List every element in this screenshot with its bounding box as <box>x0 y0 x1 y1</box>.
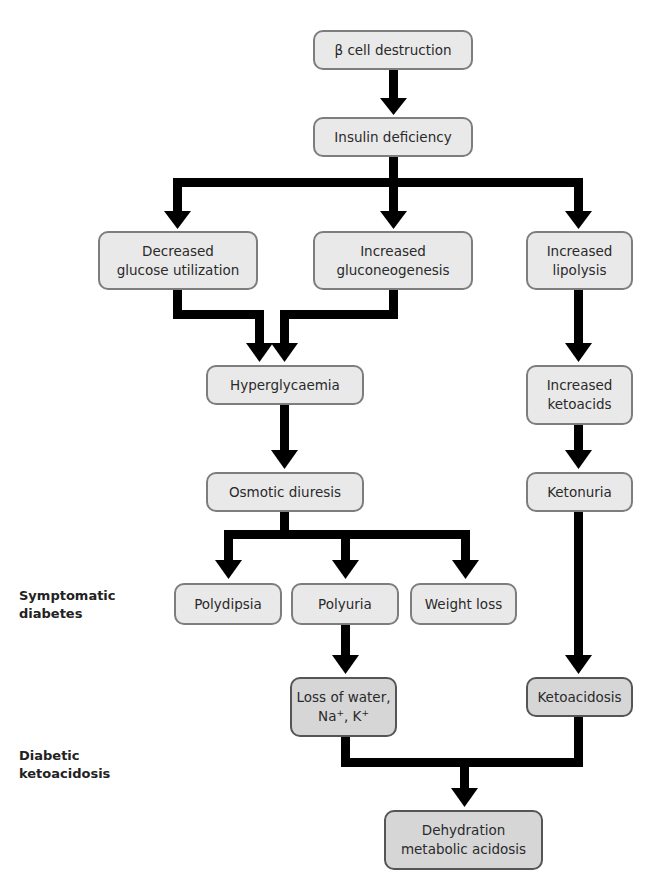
node-label-line1: Increased <box>547 242 613 261</box>
side-label-line1: Diabetic <box>19 747 110 765</box>
sodium-symbol: Na <box>318 708 336 724</box>
node-label-line2: ketoacids <box>547 395 611 414</box>
node-ketonuria: Ketonuria <box>526 472 633 512</box>
node-insulin-deficiency: Insulin deficiency <box>313 117 473 157</box>
side-label-symptomatic-diabetes: Symptomatic diabetes <box>19 587 116 623</box>
node-label: Hyperglycaemia <box>230 376 340 395</box>
node-beta-cell-destruction: β cell destruction <box>313 30 473 70</box>
node-osmotic-diuresis: Osmotic diuresis <box>206 472 364 512</box>
node-label: Polydipsia <box>194 595 262 614</box>
node-label: Insulin deficiency <box>334 128 451 147</box>
node-increased-gluconeogenesis: Increased gluconeogenesis <box>313 231 473 290</box>
node-label-line1: Loss of water, <box>297 688 391 707</box>
side-label-line2: diabetes <box>19 605 116 623</box>
node-label: Weight loss <box>425 595 502 614</box>
node-label-line2: glucose utilization <box>117 261 240 280</box>
node-label-line1: Increased <box>547 376 613 395</box>
node-label-line2: metabolic acidosis <box>401 840 526 859</box>
node-decreased-glucose-utilization: Decreased glucose utilization <box>98 231 258 290</box>
side-label-diabetic-ketoacidosis: Diabetic ketoacidosis <box>19 747 110 783</box>
node-polydipsia: Polydipsia <box>174 583 282 625</box>
side-label-line1: Symptomatic <box>19 587 116 605</box>
node-label-line1: Dehydration <box>422 821 506 840</box>
side-label-line2: ketoacidosis <box>19 765 110 783</box>
superscript-plus: + <box>361 708 369 718</box>
node-label-line2: lipolysis <box>553 261 607 280</box>
node-increased-ketoacids: Increased ketoacids <box>526 365 633 425</box>
node-increased-lipolysis: Increased lipolysis <box>526 231 633 290</box>
node-label-line2: gluconeogenesis <box>336 261 449 280</box>
node-label: Osmotic diuresis <box>229 483 341 502</box>
node-ketoacidosis: Ketoacidosis <box>526 677 633 717</box>
superscript-plus: + <box>336 708 344 718</box>
node-label-line2: Na+, K+ <box>318 707 369 726</box>
node-label: Polyuria <box>318 595 372 614</box>
node-label: Ketonuria <box>547 483 612 502</box>
node-label-line1: Increased <box>360 242 426 261</box>
node-hyperglycaemia: Hyperglycaemia <box>206 365 364 405</box>
node-polyuria: Polyuria <box>291 583 399 625</box>
node-label: Ketoacidosis <box>537 688 621 707</box>
node-loss-of-water: Loss of water, Na+, K+ <box>290 677 397 737</box>
node-label-line1: Decreased <box>142 242 214 261</box>
node-weight-loss: Weight loss <box>410 583 517 625</box>
node-dehydration-metabolic-acidosis: Dehydration metabolic acidosis <box>384 810 543 870</box>
potassium-symbol: , K <box>344 708 361 724</box>
node-label: β cell destruction <box>334 41 451 60</box>
